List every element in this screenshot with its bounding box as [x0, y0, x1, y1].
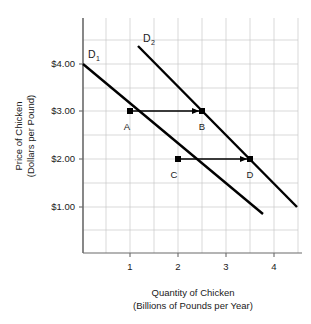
- y-tick-label-1: $1.00: [51, 201, 75, 212]
- data-point-b-label: B: [199, 121, 205, 132]
- demand-curve-chart: $4.00 $3.00 $2.00 $1.00 1 2 3 4 Quantity…: [0, 0, 311, 324]
- chart-background: [0, 0, 311, 324]
- x-tick-label-4: 4: [271, 261, 276, 272]
- y-axis-title: Price of Chicken: [13, 101, 24, 170]
- data-point-b-marker: [199, 108, 205, 114]
- data-point-a-label: A: [124, 121, 131, 132]
- curve-label-d2-subscript: 2: [151, 39, 155, 46]
- chart-canvas: $4.00 $3.00 $2.00 $1.00 1 2 3 4 Quantity…: [0, 0, 311, 324]
- curve-label-d1-subscript: 1: [96, 55, 100, 62]
- data-point-c-marker: [175, 156, 181, 162]
- x-tick-label-1: 1: [127, 261, 132, 272]
- y-axis-title-sub: (Dollars per Pound): [25, 95, 36, 177]
- x-axis-title: Quantity of Chicken: [152, 287, 235, 298]
- data-point-d-marker: [247, 156, 253, 162]
- curve-label-d1-text: D: [88, 48, 96, 60]
- x-tick-label-2: 2: [175, 261, 180, 272]
- x-tick-label-3: 3: [223, 261, 228, 272]
- data-point-c-label: C: [171, 169, 178, 180]
- data-point-a-marker: [127, 108, 133, 114]
- y-tick-label-3: $3.00: [51, 105, 75, 116]
- y-tick-label-2: $2.00: [51, 153, 75, 164]
- y-tick-label-4: $4.00: [51, 58, 75, 69]
- data-point-d-label: D: [247, 169, 254, 180]
- curve-label-d2-text: D: [143, 32, 151, 44]
- x-axis-title-sub: (Billions of Pounds per Year): [133, 300, 253, 311]
